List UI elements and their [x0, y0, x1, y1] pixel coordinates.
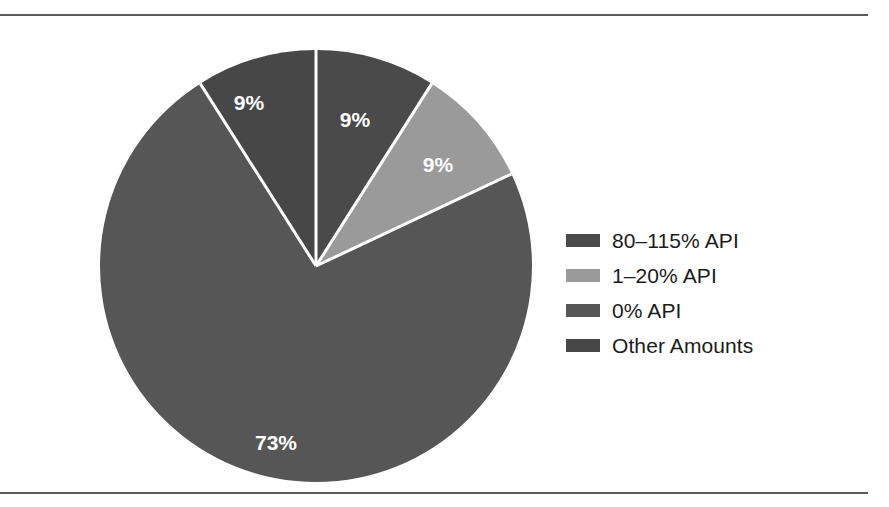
pie-slice-value-label: 9% [423, 153, 454, 176]
legend-item-label: 0% API [612, 299, 681, 323]
pie-slice-value-label: 9% [340, 108, 371, 131]
legend-swatch [566, 234, 600, 247]
legend-item-other-amounts[interactable]: Other Amounts [566, 328, 846, 363]
legend-item-label: 1–20% API [612, 264, 717, 288]
figure-container: 9% 9% 73% 9% 80–115% API 1–20% API 0% AP… [0, 0, 889, 507]
legend-item-80-115-api[interactable]: 80–115% API [566, 223, 846, 258]
pie-chart-area: 9% 9% 73% 9% 80–115% API 1–20% API 0% AP… [0, 20, 889, 488]
figure-top-rule [0, 14, 868, 16]
legend-item-1-20-api[interactable]: 1–20% API [566, 258, 846, 293]
legend-swatch [566, 304, 600, 317]
legend-item-label: Other Amounts [612, 334, 753, 358]
pie-slice-value-label: 9% [234, 91, 265, 114]
pie-slice-value-label: 73% [255, 431, 297, 454]
chart-legend: 80–115% API 1–20% API 0% API Other Amoun… [566, 223, 846, 363]
legend-item-0-api[interactable]: 0% API [566, 293, 846, 328]
legend-item-label: 80–115% API [612, 229, 739, 253]
figure-bottom-rule [0, 492, 868, 494]
pie-chart-svg: 9% 9% 73% 9% [96, 46, 536, 486]
legend-swatch [566, 269, 600, 282]
legend-swatch [566, 339, 600, 352]
